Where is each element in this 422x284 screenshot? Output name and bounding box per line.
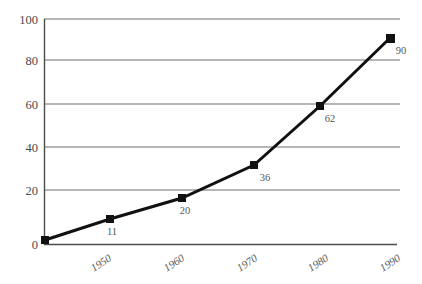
x-tick-label-1950: 1950 (88, 251, 113, 273)
axes (44, 19, 397, 245)
data-point-marker-0[interactable] (41, 236, 49, 244)
data-point-marker-11[interactable] (106, 215, 114, 223)
x-tick-label-1990: 1990 (377, 251, 402, 273)
gridlines (44, 19, 400, 190)
data-point-label-11: 11 (107, 226, 117, 237)
y-tick-label-80: 80 (26, 54, 39, 68)
data-point-markers (41, 34, 395, 244)
data-point-label-36: 36 (260, 172, 271, 183)
data-point-label-62: 62 (325, 113, 336, 124)
series-line (45, 38, 390, 240)
x-tick-label-1960: 1960 (161, 251, 186, 273)
chart-canvas: 100 80 60 40 20 0 1950 1960 1970 1980 19… (0, 0, 422, 284)
x-axis-tick-labels: 1950 1960 1970 1980 1990 (88, 251, 402, 273)
data-point-marker-90[interactable] (386, 34, 395, 43)
data-point-marker-36[interactable] (250, 161, 258, 169)
x-tick-label-1970: 1970 (234, 251, 259, 273)
data-point-label-90: 90 (396, 45, 407, 56)
y-tick-label-40: 40 (26, 141, 39, 155)
line-chart: 100 80 60 40 20 0 1950 1960 1970 1980 19… (0, 0, 422, 284)
y-tick-label-20: 20 (26, 184, 39, 198)
y-axis-tick-labels: 100 80 60 40 20 0 (19, 13, 38, 252)
x-tick-label-1980: 1980 (305, 251, 330, 273)
data-point-label-20: 20 (180, 205, 191, 216)
data-point-marker-20[interactable] (178, 194, 186, 202)
data-point-marker-62[interactable] (316, 102, 324, 110)
y-tick-label-100: 100 (19, 13, 38, 27)
y-tick-label-0: 0 (32, 238, 38, 252)
y-tick-label-60: 60 (26, 98, 39, 112)
